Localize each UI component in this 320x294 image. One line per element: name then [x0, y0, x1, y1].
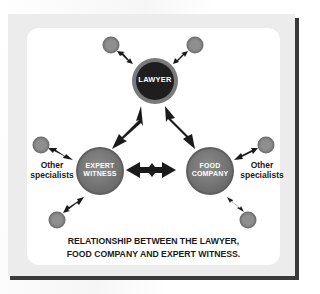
right-other-specialists-label: Other specialists: [233, 161, 291, 181]
lawyer-label-text: LAWYER: [138, 75, 171, 84]
caption-line1: RELATIONSHIP BETWEEN THE LAWYER,: [27, 235, 280, 248]
arrow-expert-bottomleft: [63, 197, 84, 213]
arrow-lawyer-topright: [173, 51, 188, 64]
food-company-line1: FOOD: [188, 162, 232, 170]
arrow-food-right: [234, 148, 258, 160]
arrow-food-bottomright: [227, 197, 244, 212]
expert-witness-line2: WITNESS: [78, 170, 122, 178]
food-company-line2: COMPANY: [188, 170, 232, 178]
expert-witness-line1: EXPERT: [78, 162, 122, 170]
small-node-right: [258, 137, 275, 154]
small-node-top-right: [187, 37, 204, 54]
small-node-top-left: [103, 37, 120, 54]
arrow-lawyer-expert: [112, 106, 143, 149]
arrow-expert-food: [126, 162, 176, 178]
small-node-bottom-right: [240, 212, 257, 229]
expert-witness-label: EXPERT WITNESS: [78, 162, 122, 178]
food-company-label: FOOD COMPANY: [188, 162, 232, 178]
arrow-expert-left: [48, 148, 73, 160]
small-node-bottom-left: [49, 212, 66, 229]
caption-line2: FOOD COMPANY AND EXPERT WITNESS.: [27, 248, 280, 261]
right-side-line2: specialists: [233, 171, 291, 181]
arrow-lawyer-topleft: [117, 51, 133, 64]
diagram-caption: RELATIONSHIP BETWEEN THE LAWYER, FOOD CO…: [27, 235, 280, 261]
left-other-specialists-label: Other specialists: [26, 161, 78, 181]
small-node-left: [33, 137, 50, 154]
lawyer-label: LAWYER: [133, 76, 177, 85]
arrow-lawyer-food: [165, 106, 195, 149]
left-side-line2: specialists: [26, 171, 78, 181]
